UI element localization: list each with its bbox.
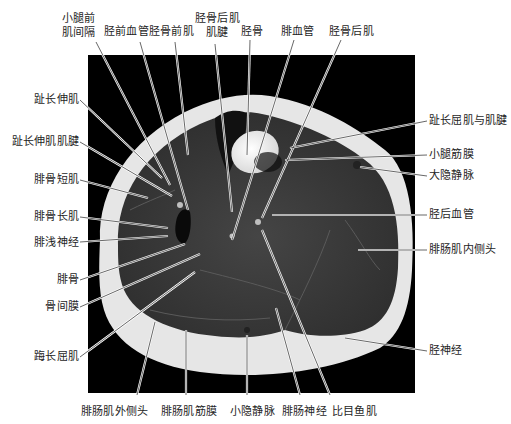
label-tibialis-anterior: 胫骨前肌 [149, 25, 194, 39]
label-extensor-digitorum-longus: 趾长伸肌 [34, 93, 79, 107]
label-crural-fascia: 小腿筋膜 [429, 148, 474, 162]
label-fibula: 腓骨 [57, 273, 79, 287]
label-flexor-hallucis-longus: 踇长屈肌 [34, 350, 79, 364]
label-small-saphenous-vein: 小隐静脉 [230, 405, 275, 419]
label-tibia: 胫骨 [241, 25, 263, 39]
label-line: 小腿前 [62, 12, 96, 26]
label-gastrocnemius-lateral-head: 腓肠肌外侧头 [81, 405, 148, 419]
posterior-tibial-vessel-dot [255, 219, 261, 225]
label-superficial-peroneal-nerve: 腓浅神经 [34, 236, 79, 250]
label-great-saphenous-vein: 大隐静脉 [429, 169, 474, 183]
label-tibialis-posterior-tendon: 胫骨后肌 肌腱 [195, 12, 240, 40]
label-anterior-intermuscular-septum: 小腿前 肌间隔 [62, 12, 96, 40]
label-sural-nerve: 腓肠神经 [282, 405, 327, 419]
label-line: 肌腱 [195, 26, 240, 40]
label-flexor-digitorum-longus: 趾长屈肌与肌腱 [429, 114, 507, 128]
label-peroneus-longus: 腓骨长肌 [34, 210, 79, 224]
label-interosseous-membrane: 骨间膜 [45, 300, 79, 314]
label-line: 胫骨后肌 [195, 12, 240, 26]
mri-figure: 小腿前 肌间隔 胫前血管 胫骨前肌 胫骨后肌 肌腱 胫骨 腓血管 胫骨后肌 趾长… [0, 0, 511, 424]
small-saphenous-vein-dot [244, 327, 250, 333]
label-peroneus-brevis: 腓骨短肌 [34, 173, 79, 187]
label-tibialis-posterior: 胫骨后肌 [329, 25, 374, 39]
label-tibial-nerve: 胫神经 [429, 344, 463, 358]
label-posterior-tibial-vessels: 胫后血管 [429, 208, 474, 222]
great-saphenous-vein-dot [353, 161, 361, 169]
label-gastrocnemius-medial-head: 腓肠肌内侧头 [429, 243, 496, 257]
label-line: 肌间隔 [62, 26, 96, 40]
label-gastrocnemius-fascia: 腓肠肌筋膜 [161, 405, 217, 419]
label-extensor-digitorum-longus-tendon: 趾长伸肌肌腱 [12, 135, 79, 149]
label-soleus: 比目鱼肌 [332, 405, 377, 419]
label-peroneal-vessels: 腓血管 [281, 25, 315, 39]
label-anterior-tibial-vessels: 胫前血管 [104, 25, 149, 39]
anterior-tibial-vessel-dot [177, 202, 183, 208]
